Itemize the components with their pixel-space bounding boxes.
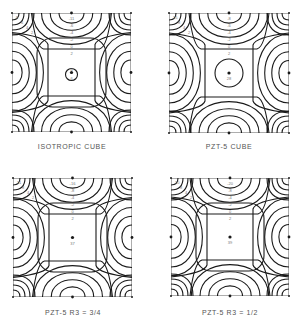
corner-level-label: 2 xyxy=(31,30,34,35)
corner-level-label: 8 xyxy=(22,185,25,190)
contour-level-label: -8 xyxy=(227,16,231,21)
panel-caption: PZT-5 R3 = 3/4 xyxy=(45,309,101,316)
contour-level-label: -4 xyxy=(227,30,231,35)
center-value-label: 28 xyxy=(227,76,232,81)
contour-plot: -8-6-4-2021584228 xyxy=(169,13,289,133)
contour-level-label: -20 xyxy=(227,181,234,186)
contour-level-label: -6 xyxy=(227,23,231,28)
contour-level-label: -11 xyxy=(69,16,75,21)
contour-level-label: -8 xyxy=(71,188,75,193)
contour-plot: -20-8-4-2021084239 xyxy=(171,178,289,296)
center-value-label: 39 xyxy=(228,240,233,245)
contour-plot: -11-6-4-202864246 xyxy=(12,13,131,132)
corner-level-label: 8 xyxy=(180,185,183,190)
contour-plot: -16-8-4-2021184237 xyxy=(13,178,132,297)
center-value-label: 6 xyxy=(70,76,73,81)
corner-level-label: 8 xyxy=(178,20,181,25)
contour-level-label: 2 xyxy=(229,216,232,221)
contour-level-label: 2 xyxy=(71,216,74,221)
corner-level-label: 2 xyxy=(32,195,35,200)
contour-panel-pzt5-cube: -8-6-4-2021584228 xyxy=(169,13,289,133)
panel-caption: ISOTROPIC CUBE xyxy=(38,143,106,150)
panel-caption: PZT-5 R3 = 1/2 xyxy=(202,309,258,316)
contour-level-label: 2 xyxy=(70,51,73,56)
center-value-label: 37 xyxy=(70,241,75,246)
contour-level-label: -16 xyxy=(70,181,77,186)
contour-level-label: 2 xyxy=(228,51,231,56)
contour-level-label: -8 xyxy=(228,188,232,193)
corner-level-label: 6 xyxy=(21,20,24,25)
panel-caption: PZT-5 CUBE xyxy=(206,143,252,150)
contour-panel-pzt5-r3-3-4: -16-8-4-2021184237 xyxy=(13,178,132,297)
contour-panel-isotropic-cube: -11-6-4-202864246 xyxy=(12,13,131,132)
contour-level-label: -4 xyxy=(70,30,74,35)
contour-panel-pzt5-r3-1-2: -20-8-4-2021084239 xyxy=(171,178,289,296)
contour-level-label: -6 xyxy=(70,23,74,28)
contour-level-label: -4 xyxy=(71,195,75,200)
contour-level-label: -4 xyxy=(228,195,232,200)
corner-level-label: 2 xyxy=(188,30,191,35)
